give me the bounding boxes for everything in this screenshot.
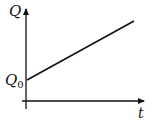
x-axis-label: t: [138, 106, 144, 120]
intercept-label-subscript: 0: [17, 79, 23, 90]
data-line: [27, 21, 134, 80]
q-vs-t-chart: [0, 0, 153, 122]
intercept-label: Q0: [5, 73, 24, 90]
y-axis-label: Q: [9, 4, 21, 19]
intercept-label-main: Q: [5, 71, 17, 89]
